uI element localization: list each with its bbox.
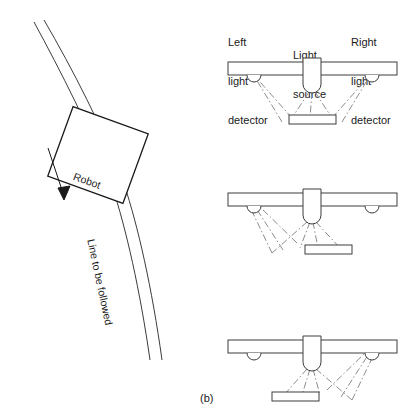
ray-source-to-strip-c: [316, 222, 340, 248]
ray-source-to-floor-b: [316, 369, 352, 400]
right-light-detector-icon: [365, 206, 379, 213]
ray-source-to-strip-right: [315, 92, 332, 118]
right-light-detector-icon: [365, 353, 379, 360]
ray-strip-to-right-detector: [332, 74, 371, 118]
panel-centered: [228, 58, 397, 124]
ray-source-to-floor-a: [272, 222, 307, 253]
ray-reflect-right-outer: [342, 74, 371, 122]
ray-source-to-strip-a: [300, 222, 310, 248]
light-source-icon: [303, 336, 321, 371]
line-strip: [272, 392, 319, 401]
ray-source-to-strip-c: [313, 369, 320, 395]
ray-reflect-left-steep: [258, 205, 297, 243]
figure-line-following-robot: Robot Line to be followed Left light det…: [0, 0, 418, 416]
left-light-detector-icon: [247, 75, 261, 82]
panel-line-left: [228, 336, 397, 401]
sensor-panels-graphics: [0, 0, 418, 416]
ray-reflect-right-steep: [327, 352, 366, 390]
ray-source-to-strip-left: [292, 92, 309, 118]
line-strip: [305, 245, 352, 254]
figure-caption: (b): [200, 392, 213, 404]
panel-line-right: [228, 189, 397, 254]
right-light-detector-icon: [365, 75, 379, 82]
light-source-icon: [303, 58, 321, 93]
line-strip: [289, 115, 336, 124]
ray-source-to-strip-center: [310, 92, 312, 118]
light-source-icon: [303, 189, 321, 224]
left-light-detector-icon: [247, 353, 261, 360]
ray-source-to-strip-b: [313, 222, 318, 248]
ray-reflect-right-inner: [341, 352, 370, 397]
